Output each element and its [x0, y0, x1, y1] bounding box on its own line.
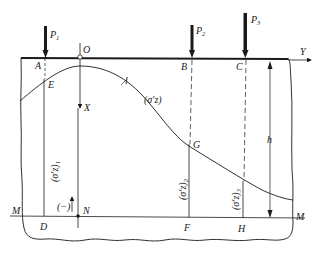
plane-label-right: M	[295, 211, 305, 222]
load-p3: P3	[242, 13, 261, 58]
ground-surface	[21, 58, 288, 59]
plane-label-left: M	[11, 205, 21, 216]
origin-point	[78, 55, 82, 59]
svg-text:P2: P2	[195, 25, 206, 37]
point-e-label: E	[47, 79, 54, 90]
point-b-label: B	[181, 61, 187, 72]
point-d-label: D	[39, 221, 48, 232]
stress-curve	[20, 66, 293, 200]
line-c	[244, 60, 246, 181]
load-p2: P2	[189, 25, 206, 58]
soil-boundary	[21, 58, 293, 241]
ordinate-1-label: (σ′z)1	[49, 161, 61, 182]
ordinate-2-label: (σ′z)2	[177, 178, 189, 200]
svg-text:P1: P1	[49, 29, 59, 41]
curve-stress-label: (σ′z)	[144, 94, 162, 106]
point-f-label: F	[183, 222, 191, 233]
x-axis-label: X	[83, 102, 91, 113]
origin-label: O	[83, 44, 90, 55]
point-n-label: N	[82, 205, 91, 216]
stress-diagram: Y M M P1 P2 P3 O X N (−) l (σ′z) A E D (…	[0, 0, 320, 258]
line-b-g	[190, 60, 192, 144]
point-h-label: H	[237, 223, 246, 234]
point-n	[76, 214, 80, 218]
load-p1: P1	[43, 26, 60, 58]
y-axis-label: Y	[300, 46, 307, 57]
sign-label: (−)	[57, 201, 71, 213]
point-c-label: C	[236, 61, 243, 72]
svg-text:P3: P3	[250, 14, 261, 26]
ordinate-3-label: (σ′z)3	[230, 188, 242, 210]
plane-mm	[10, 216, 305, 218]
point-a-label: A	[34, 60, 42, 71]
point-g-label: G	[193, 139, 200, 150]
